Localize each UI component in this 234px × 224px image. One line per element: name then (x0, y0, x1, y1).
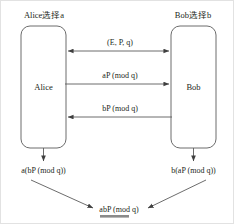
alice-computed-secret: a(bP (mod q)) (21, 166, 66, 175)
diagram-canvas: Alice选择a Bob选择b Alice Bob (E, P, q) aP (… (1, 1, 234, 224)
diffie-hellman-key-exchange-figure: Alice选择a Bob选择b Alice Bob (E, P, q) aP (… (0, 0, 234, 224)
bob-computed-secret: b(aP (mod q)) (171, 166, 216, 175)
right-party-title: Bob选择b (175, 10, 211, 20)
message-label-alice-public: aP (mod q) (102, 71, 138, 80)
message-label-params: (E, P, q) (107, 38, 133, 47)
alice-node-label: Alice (34, 82, 53, 92)
bob-node-label: Bob (186, 82, 200, 92)
message-label-bob-public: bP (mod q) (102, 104, 138, 113)
bob-to-shared-arrow (148, 180, 206, 208)
shared-secret-label: abP (mod q) (99, 205, 139, 214)
shared-secret-underline (100, 215, 129, 218)
alice-to-shared-arrow (31, 180, 93, 208)
left-party-title: Alice选择a (24, 10, 64, 20)
